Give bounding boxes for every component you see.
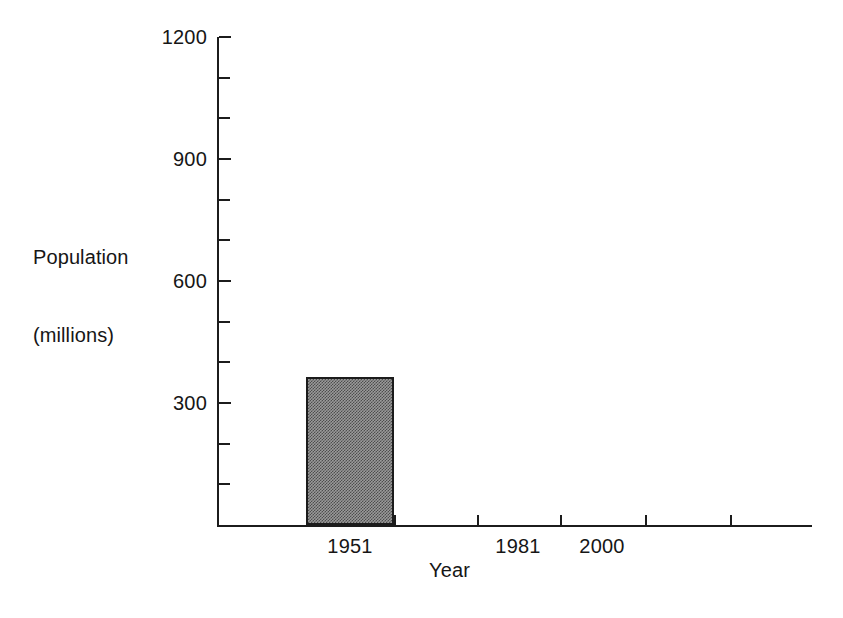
y-axis-tick-label: 1200 [162, 26, 207, 49]
plot-area: 1200900600300 195119812000 [217, 37, 812, 527]
y-axis-minor-tick [219, 199, 230, 201]
y-axis-major-tick: 300 [219, 402, 231, 404]
x-axis-tick [394, 515, 396, 525]
y-axis-tick-label: 600 [173, 270, 207, 293]
y-axis-tick-label: 300 [173, 392, 207, 415]
y-axis-title-line1: Population [33, 244, 129, 270]
x-axis-tick [560, 515, 562, 525]
x-axis-tick [477, 515, 479, 525]
y-axis-minor-tick [219, 321, 230, 323]
y-axis-title: Population (millions) [33, 192, 129, 400]
bar [306, 377, 394, 525]
y-axis-minor-tick [219, 239, 230, 241]
x-axis-line [217, 525, 812, 527]
y-axis-minor-tick [219, 483, 230, 485]
y-axis-tick-label: 900 [173, 148, 207, 171]
y-axis-minor-tick [219, 443, 230, 445]
y-axis-minor-tick [219, 361, 230, 363]
x-axis-tick [730, 515, 732, 525]
y-axis-major-tick: 1200 [219, 36, 231, 38]
y-axis-minor-tick [219, 117, 230, 119]
population-bar-chart: Population (millions) 1200900600300 1951… [0, 0, 843, 618]
x-axis-tick [645, 515, 647, 525]
x-axis-tick-label: 1981 [495, 535, 540, 558]
y-axis-line [217, 37, 219, 527]
x-axis-tick-label: 2000 [579, 535, 624, 558]
y-axis-minor-tick [219, 77, 230, 79]
y-axis-major-tick: 600 [219, 280, 231, 282]
x-axis-title: Year [0, 559, 843, 582]
y-axis-title-line2: (millions) [33, 322, 129, 348]
x-axis-title-text: Year [429, 559, 470, 581]
x-axis-tick-label: 1951 [327, 535, 372, 558]
y-axis-major-tick: 900 [219, 158, 231, 160]
